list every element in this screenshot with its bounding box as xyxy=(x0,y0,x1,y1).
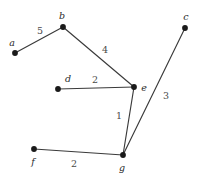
node-label-f: f xyxy=(31,157,35,167)
graph-edge-d-e xyxy=(58,87,134,89)
graph-node-c[interactable] xyxy=(182,25,188,31)
node-label-g: g xyxy=(119,163,125,173)
graph-edge-f-g xyxy=(34,149,123,155)
graph-node-f[interactable] xyxy=(31,146,37,152)
graph-node-e[interactable] xyxy=(131,84,137,90)
nodes-layer xyxy=(12,24,188,158)
edge-weight-b-e: 4 xyxy=(102,45,108,55)
edge-weight-c-g: 3 xyxy=(163,91,169,101)
node-label-c: c xyxy=(183,12,188,22)
graph-node-g[interactable] xyxy=(120,152,126,158)
weighted-graph-diagram: 542132abcdefg xyxy=(0,0,198,179)
node-label-b: b xyxy=(59,11,65,21)
node-label-e: e xyxy=(141,83,147,93)
edge-weight-e-g: 1 xyxy=(116,111,122,121)
node-label-d: d xyxy=(65,74,71,84)
graph-node-d[interactable] xyxy=(55,86,61,92)
edge-weight-d-e: 2 xyxy=(92,75,98,85)
node-label-a: a xyxy=(9,38,15,48)
graph-node-a[interactable] xyxy=(12,50,18,56)
graph-node-b[interactable] xyxy=(60,24,66,30)
edges-layer xyxy=(15,27,185,155)
edge-weight-f-g: 2 xyxy=(71,159,77,169)
graph-edge-c-g xyxy=(123,28,185,155)
edge-weight-a-b: 5 xyxy=(37,26,43,36)
graph-edge-b-e xyxy=(63,27,134,87)
